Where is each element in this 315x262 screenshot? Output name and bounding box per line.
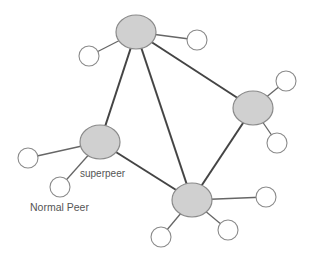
superpeer-node xyxy=(233,91,273,125)
network-diagram xyxy=(0,0,315,262)
superpeer-node xyxy=(172,183,212,217)
superpeer-node xyxy=(116,15,156,49)
normal-peer-node xyxy=(276,71,296,91)
normal-peer-node xyxy=(79,46,99,66)
normal-peer-node xyxy=(256,187,276,207)
normal-peer-node xyxy=(151,227,171,247)
normal-peer-node xyxy=(187,30,207,50)
superpeer-node xyxy=(80,125,120,159)
normal-peer-node xyxy=(18,148,38,168)
normal-peer-node xyxy=(50,177,70,197)
superpeer-label: superpeer xyxy=(80,168,125,179)
normal-peer-node xyxy=(267,133,287,153)
normal-peer-label: Normal Peer xyxy=(30,201,89,213)
normal-peer-node xyxy=(218,220,238,240)
superpeer-link xyxy=(136,32,192,200)
diagram-canvas: superpeer Normal Peer xyxy=(0,0,315,262)
